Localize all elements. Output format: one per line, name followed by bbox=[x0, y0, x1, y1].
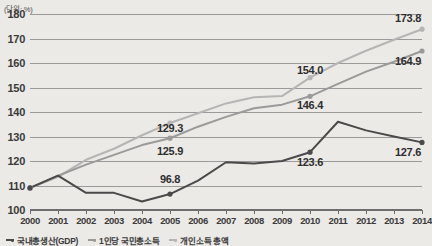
legend-dot-icon bbox=[93, 239, 96, 242]
x-axis-tick-mark bbox=[366, 210, 367, 214]
legend-label: 개인소득 총액 bbox=[180, 234, 228, 246]
x-axis-tick-mark bbox=[254, 210, 255, 214]
x-axis-tick-label: 2004 bbox=[132, 215, 152, 226]
x-axis-tick-label: 2014 bbox=[412, 215, 432, 226]
data-label: 164.9 bbox=[395, 55, 421, 67]
x-axis-tick-mark bbox=[30, 210, 31, 214]
data-label: 96.8 bbox=[160, 173, 180, 185]
x-axis-tick-label: 2010 bbox=[300, 215, 320, 226]
data-label: 123.6 bbox=[297, 156, 323, 168]
data-label: 173.8 bbox=[395, 12, 421, 24]
x-axis-tick-label: 2012 bbox=[356, 215, 376, 226]
x-axis-tick-label: 2003 bbox=[104, 215, 124, 226]
x-axis-tick-mark bbox=[310, 210, 311, 214]
x-axis-tick-label: 2005 bbox=[160, 215, 180, 226]
x-axis-tick-mark bbox=[170, 210, 171, 214]
legend-item[interactable]: 개인소득 총액 bbox=[169, 234, 228, 246]
legend-item[interactable]: 국내총생산(GDP) bbox=[6, 234, 78, 246]
data-label: 127.6 bbox=[395, 146, 421, 158]
data-point-marker bbox=[419, 48, 424, 53]
data-label: 154.0 bbox=[297, 64, 323, 76]
data-label: 125.9 bbox=[157, 145, 183, 157]
y-axis-tick-label: 140 bbox=[8, 106, 25, 118]
x-axis-tick-mark bbox=[58, 210, 59, 214]
y-axis-tick-label: 110 bbox=[8, 180, 25, 192]
data-point-marker bbox=[167, 136, 172, 141]
data-point-marker bbox=[167, 191, 172, 196]
series-line bbox=[30, 51, 422, 188]
data-point-marker bbox=[419, 27, 424, 32]
x-axis-tick-label: 2000 bbox=[20, 215, 40, 226]
legend-label: 국내총생산(GDP) bbox=[17, 234, 78, 246]
x-axis-tick-mark bbox=[282, 210, 283, 214]
chart-legend: 국내총생산(GDP)1인당 국민총소득개인소득 총액 bbox=[6, 234, 229, 246]
x-axis-tick-mark bbox=[338, 210, 339, 214]
y-axis-tick-label: 160 bbox=[8, 57, 25, 69]
x-axis-tick-label: 2001 bbox=[48, 215, 68, 226]
data-point-marker bbox=[419, 140, 424, 145]
legend-item[interactable]: 1인당 국민총소득 bbox=[88, 234, 159, 246]
x-axis-tick-label: 2002 bbox=[76, 215, 96, 226]
data-label: 129.3 bbox=[157, 122, 183, 134]
y-axis-tick-label: 150 bbox=[8, 82, 25, 94]
data-point-marker bbox=[307, 150, 312, 155]
x-axis-tick-label: 2011 bbox=[328, 215, 347, 226]
plot-area: 100110120130140150160170180 200020012002… bbox=[30, 14, 422, 210]
x-axis-tick-mark bbox=[142, 210, 143, 214]
series-line bbox=[30, 122, 422, 202]
x-axis-tick-label: 2013 bbox=[384, 215, 404, 226]
legend-dot-icon bbox=[11, 239, 14, 242]
x-axis-tick-mark bbox=[198, 210, 199, 214]
x-axis-tick-mark bbox=[422, 210, 423, 214]
y-axis-tick-label: 120 bbox=[8, 155, 25, 167]
data-point-marker bbox=[27, 185, 32, 190]
x-axis-tick-label: 2006 bbox=[188, 215, 208, 226]
x-axis-tick-mark bbox=[226, 210, 227, 214]
x-axis-tick-label: 2007 bbox=[216, 215, 236, 226]
legend-label: 1인당 국민총소득 bbox=[99, 234, 159, 246]
x-axis-tick-mark bbox=[394, 210, 395, 214]
y-axis-tick-label: 170 bbox=[8, 33, 25, 45]
y-axis-tick-label: 180 bbox=[8, 8, 25, 20]
data-label: 146.4 bbox=[297, 99, 323, 111]
x-axis-tick-label: 2009 bbox=[272, 215, 292, 226]
x-axis-tick-mark bbox=[114, 210, 115, 214]
x-axis-tick-mark bbox=[86, 210, 87, 214]
x-axis-tick-label: 2008 bbox=[244, 215, 264, 226]
y-axis-tick-label: 130 bbox=[8, 131, 25, 143]
series-lines bbox=[30, 14, 422, 210]
